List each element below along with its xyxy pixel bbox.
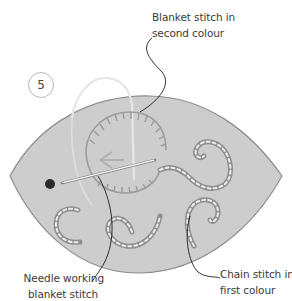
- embroidery-illustration: [0, 0, 292, 301]
- step-number-badge: 5: [28, 72, 54, 98]
- label-needle-working-blanket-stitch: Needle working blanket stitch: [22, 270, 104, 301]
- label-line: first colour: [220, 282, 292, 298]
- label-line: Chain stitch in: [220, 266, 292, 282]
- thread-knot: [45, 179, 55, 189]
- label-line: Blanket stitch in: [152, 9, 235, 25]
- label-chain-stitch-first-colour: Chain stitch in first colour: [220, 266, 292, 298]
- label-line: blanket stitch: [22, 286, 104, 301]
- label-blanket-stitch-second-colour: Blanket stitch in second colour: [152, 9, 235, 41]
- label-line: second colour: [152, 25, 235, 41]
- label-line: Needle working: [22, 270, 104, 286]
